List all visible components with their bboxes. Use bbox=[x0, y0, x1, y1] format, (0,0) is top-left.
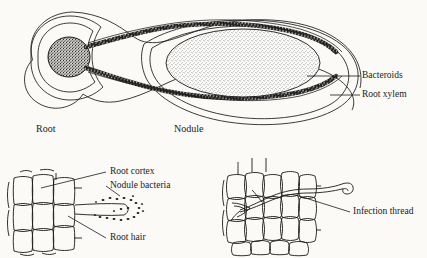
label-root-cortex: Root cortex bbox=[110, 167, 155, 177]
infection-thread bbox=[231, 183, 353, 221]
label-nodule: Nodule bbox=[174, 124, 203, 134]
label-root-hair: Root hair bbox=[110, 233, 146, 243]
bottom-left-cells bbox=[8, 169, 83, 255]
label-root-xylem: Root xylem bbox=[362, 90, 407, 100]
root-stele bbox=[48, 37, 90, 77]
leader-root-cortex bbox=[41, 172, 106, 188]
label-infection-thread: Infection thread bbox=[353, 207, 413, 217]
label-root: Root bbox=[36, 124, 55, 134]
label-bacteroids: Bacteroids bbox=[362, 71, 403, 81]
nodule-bacteria-dots bbox=[94, 195, 145, 221]
bottom-right-cells bbox=[223, 158, 322, 256]
leader-infection-thread bbox=[296, 195, 350, 212]
figure-artwork bbox=[0, 0, 427, 258]
bacteroid-zone bbox=[166, 29, 320, 97]
bottom-right-leader-lines bbox=[296, 195, 350, 212]
label-nodule-bacteria: Nodule bacteria bbox=[110, 181, 170, 191]
root-nodule-figure: Root Nodule Bacteroids Root xylem Root c… bbox=[0, 0, 427, 258]
